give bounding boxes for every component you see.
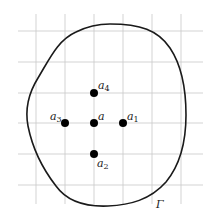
label-a4: a4: [98, 79, 110, 93]
point-a4: [90, 89, 98, 97]
point-a3: [61, 119, 69, 127]
label-a1: a1: [127, 110, 139, 124]
grid: [18, 14, 203, 204]
labels: a a1 a2 a3 a4 Γ: [50, 79, 164, 211]
label-a2: a2: [97, 157, 109, 171]
label-a: a: [98, 110, 105, 123]
point-a: [90, 119, 98, 127]
point-a1: [119, 119, 127, 127]
label-gamma: Γ: [155, 198, 164, 211]
label-a3: a3: [50, 110, 62, 124]
diagram-canvas: a a1 a2 a3 a4 Γ: [0, 0, 215, 224]
